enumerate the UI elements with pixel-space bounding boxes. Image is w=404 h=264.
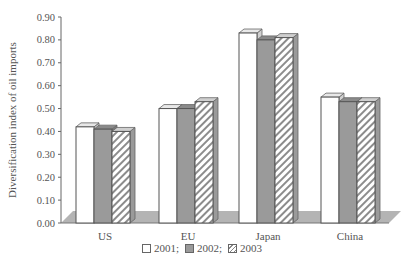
y-tick-label: 0.50 <box>37 103 55 114</box>
bar-china-2003 <box>357 102 375 223</box>
bar-china-2001 <box>321 97 339 223</box>
bar-us-2002 <box>94 129 112 223</box>
bars <box>76 29 380 223</box>
bar-japan-2003 <box>275 38 293 223</box>
y-tick-label: 0.30 <box>37 149 55 160</box>
x-tick-label: Japan <box>255 230 281 242</box>
bar-china-2002 <box>339 102 357 223</box>
legend-item-2001: 2001; <box>142 242 179 254</box>
x-tick-label: China <box>337 230 363 242</box>
bar-group-us <box>76 123 135 223</box>
y-tick-label: 0.70 <box>37 57 55 68</box>
x-axis-labels: USEUJapanChina <box>98 230 363 242</box>
bar-japan-2001 <box>239 33 257 223</box>
legend-swatch-2003 <box>228 244 237 253</box>
y-tick-label: 0.40 <box>37 126 55 137</box>
y-tick-label: 0.60 <box>37 80 55 91</box>
bar-japan-2002 <box>257 40 275 223</box>
bar-group-china <box>321 93 380 223</box>
y-tick-label: 0.00 <box>37 218 55 229</box>
legend-swatch-2001 <box>142 244 151 253</box>
legend-swatch-2002 <box>185 244 194 253</box>
bar-group-japan <box>239 29 298 223</box>
y-tick-label: 0.90 <box>37 12 55 23</box>
bar-us-2003 <box>112 131 130 223</box>
legend-item-2002: 2002; <box>185 242 222 254</box>
plot-area: 0.000.100.200.300.400.500.600.700.800.90… <box>0 0 404 264</box>
y-tick-label: 0.20 <box>37 172 55 183</box>
y-tick-label: 0.80 <box>37 34 55 45</box>
bar-us-2001 <box>76 127 94 223</box>
bar-eu-2001 <box>159 109 177 223</box>
bar-eu-2003 <box>195 102 213 223</box>
x-tick-label: EU <box>181 230 196 242</box>
y-axis: 0.000.100.200.300.400.500.600.700.800.90 <box>37 12 61 229</box>
x-tick-label: US <box>98 230 112 242</box>
legend: 2001; 2002; 2003 <box>0 242 404 254</box>
bar-group-eu <box>159 98 218 223</box>
bar-chart: 0.000.100.200.300.400.500.600.700.800.90… <box>0 0 404 264</box>
y-tick-label: 0.10 <box>37 195 55 206</box>
legend-item-2003: 2003 <box>228 242 262 254</box>
y-axis-title: Diversification index of oil imports <box>2 20 22 220</box>
bar-eu-2002 <box>177 109 195 223</box>
